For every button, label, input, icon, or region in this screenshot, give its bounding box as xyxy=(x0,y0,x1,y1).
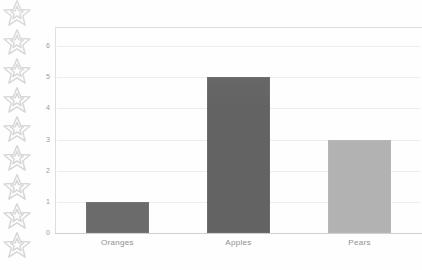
bar-oranges[interactable] xyxy=(86,202,149,233)
chart-screenshot: 0123456 OrangesApplesPears xyxy=(0,0,422,270)
star-outline-icon xyxy=(2,230,32,260)
plot-top-border xyxy=(55,27,422,28)
bar-chart: 0123456 OrangesApplesPears xyxy=(0,0,422,270)
x-tick-label-pears: Pears xyxy=(299,238,420,248)
star-outline-icon xyxy=(2,201,32,231)
star-outline-icon xyxy=(2,114,32,144)
star-watermark-column xyxy=(0,0,36,270)
bar-apples[interactable] xyxy=(207,77,270,233)
axis-baseline xyxy=(55,233,422,234)
star-outline-icon xyxy=(2,27,32,57)
plot-left-axis xyxy=(55,27,56,234)
star-outline-icon xyxy=(2,85,32,115)
star-outline-icon xyxy=(2,56,32,86)
x-tick-label-apples: Apples xyxy=(178,238,299,248)
x-tick-label-oranges: Oranges xyxy=(57,238,178,248)
bar-pears[interactable] xyxy=(328,140,391,234)
star-outline-icon xyxy=(2,0,32,28)
star-outline-icon xyxy=(2,172,32,202)
gridline-6 xyxy=(57,46,420,47)
star-outline-icon xyxy=(2,143,32,173)
